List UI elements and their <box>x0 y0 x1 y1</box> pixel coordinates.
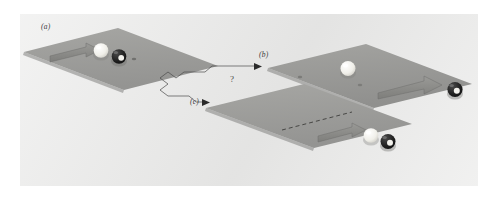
panel-b-cue-ball <box>340 61 356 79</box>
panel-a <box>23 28 218 93</box>
panel-a-rail-mark <box>132 58 136 61</box>
figure-root: (a) (b) (c) ? <box>0 0 499 204</box>
panel-b-label: (b) <box>259 50 268 59</box>
figure-illustration <box>0 0 499 204</box>
branch-b-arrowhead <box>254 63 262 70</box>
panel-c-label: (c) <box>190 97 199 106</box>
panel-c-eight-ball <box>380 134 396 152</box>
branch-c-arrowhead <box>202 99 210 106</box>
panel-b-eight-ball <box>447 82 463 100</box>
panel-b-rail-mark <box>298 76 302 79</box>
panel-b-rail-mark-2 <box>358 84 362 87</box>
uncertainty-question-mark: ? <box>230 74 234 84</box>
panel-a-label: (a) <box>41 22 50 31</box>
